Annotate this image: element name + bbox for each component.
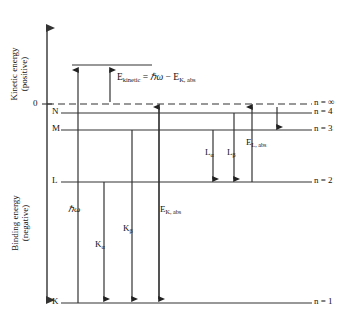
shell-label-l: L [52, 176, 58, 185]
equation-lhs-subscript: kinetic [123, 76, 141, 83]
equation-minus: − [163, 72, 173, 82]
transition-label-ek-abs: EK, abs [160, 205, 181, 215]
quantum-label-n-1: n = 1 [314, 297, 333, 306]
energy-axis [42, 28, 52, 300]
quantum-label-n-4: n = 4 [314, 107, 333, 116]
transition-label-k-beta: Kβ [123, 224, 133, 234]
axis-label-kinetic-energy: Kinetic energy (positive) [9, 36, 29, 112]
level-lines [47, 65, 312, 303]
l-alpha-subscript: α [211, 152, 214, 158]
quantum-label-n-3: n = 3 [314, 124, 333, 133]
k-alpha-subscript: α [102, 244, 105, 250]
ek-abs-subscript: K, abs [166, 209, 182, 215]
axis-label-binding-energy: Binding energy (negative) [10, 184, 30, 262]
energy-level-diagram: Kinetic energy (positive) Binding energy… [0, 0, 347, 323]
axis-label-kinetic-line2: (positive) [19, 36, 29, 112]
equation-rhs-subscript: K, abs [179, 76, 196, 83]
axis-label-kinetic-line1: Kinetic energy [9, 36, 19, 112]
diagram-canvas [0, 0, 347, 323]
quantum-label-n-2: n = 2 [314, 176, 333, 185]
axis-label-binding-line2: (negative) [20, 184, 30, 262]
transition-label-l-alpha: Lα [205, 148, 214, 158]
equation-photon-term: ℏω [150, 72, 163, 82]
el-abs-subscript: L, abs [252, 142, 267, 148]
shell-label-k: K [52, 297, 59, 306]
equation-equals: = [140, 72, 150, 82]
transition-label-l-beta: Lβ [227, 148, 236, 158]
axis-label-binding-line1: Binding energy [10, 184, 20, 262]
transition-label-k-alpha: Kα [95, 240, 105, 250]
shell-label-n: N [52, 107, 59, 116]
transition-label-hw: ℏω [68, 205, 80, 214]
shell-label-m: M [52, 124, 60, 133]
axis-zero-tick-label: 0 [33, 99, 38, 108]
l-beta-subscript: β [233, 152, 236, 158]
transition-arrows [78, 70, 277, 303]
transition-label-el-abs: EL, abs [246, 138, 266, 148]
k-beta-subscript: β [130, 228, 133, 234]
kinetic-energy-equation: Ekinetic = ℏω − EK, abs [117, 73, 196, 83]
